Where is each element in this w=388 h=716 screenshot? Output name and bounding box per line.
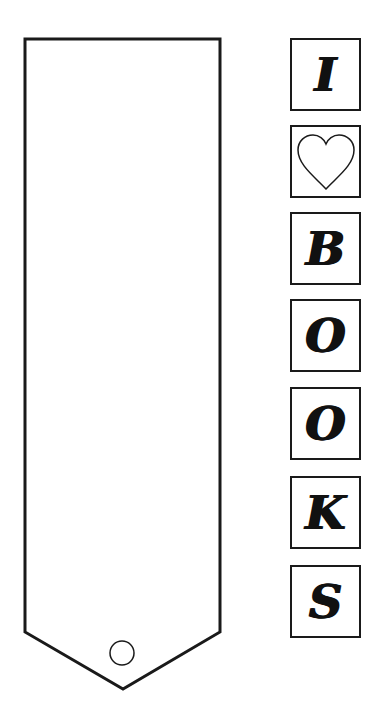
tile-letter-s: S: [290, 565, 361, 638]
tile-letter-o-1: O: [290, 299, 361, 372]
letter-o: O: [305, 313, 345, 359]
tile-letter-o-2: O: [290, 387, 361, 460]
tile-letter-b: B: [290, 212, 361, 285]
letter-s: S: [309, 579, 342, 625]
letter-b: B: [306, 226, 345, 272]
tile-letter-k: K: [290, 476, 361, 549]
tile-letter-i: I: [290, 38, 361, 111]
letter-o: O: [305, 401, 345, 447]
bookmark-shape: [25, 39, 220, 689]
tile-heart: [290, 125, 361, 198]
letter-k: K: [306, 490, 346, 536]
heart-icon: [295, 133, 357, 191]
letter-i: I: [315, 52, 337, 98]
